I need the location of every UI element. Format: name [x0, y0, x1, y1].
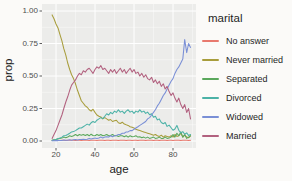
legend-label: No answer	[226, 36, 269, 46]
y-tick-label: 0.50	[4, 72, 38, 80]
marital-prop-chart: prop age 1.00 0.75 0.50 0.25 0.00 20 40 …	[0, 0, 292, 181]
legend-swatch	[202, 135, 219, 137]
x-tick-label: 80	[162, 151, 184, 159]
legend-item: Never married	[202, 50, 291, 69]
legend-label: Separated	[226, 74, 268, 84]
legend: marital No answer Never married Separate…	[202, 12, 291, 145]
legend-item: Married	[202, 126, 291, 145]
legend-item: No answer	[202, 31, 291, 50]
legend-swatch	[202, 97, 219, 99]
legend-label: Never married	[226, 55, 283, 65]
legend-item: Widowed	[202, 107, 291, 126]
y-tick-label: 0.25	[4, 105, 38, 113]
legend-swatch	[202, 40, 219, 42]
legend-label: Divorced	[226, 93, 262, 103]
legend-title: marital	[208, 12, 291, 25]
legend-swatch	[202, 59, 219, 61]
y-axis-title: prop	[2, 48, 14, 92]
x-tick-label: 60	[123, 151, 145, 159]
y-tick-label: 1.00	[4, 7, 38, 15]
legend-swatch	[202, 78, 219, 80]
x-axis-title: age	[94, 163, 144, 175]
y-tick-label: 0.00	[4, 137, 38, 145]
legend-label: Married	[226, 131, 257, 141]
legend-label: Widowed	[226, 112, 263, 122]
legend-item: Separated	[202, 69, 291, 88]
x-tick-label: 20	[45, 151, 67, 159]
legend-item: Divorced	[202, 88, 291, 107]
legend-swatch	[202, 116, 219, 118]
x-tick-label: 40	[84, 151, 106, 159]
y-tick-label: 0.75	[4, 40, 38, 48]
